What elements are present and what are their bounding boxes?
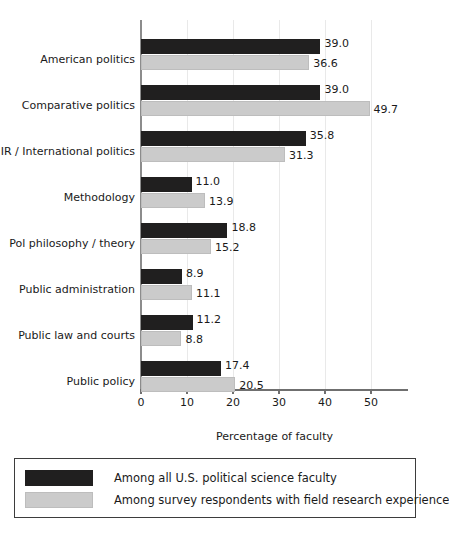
category-label-7: Public policy (0, 375, 135, 388)
legend: Among all U.S. political science faculty… (14, 458, 416, 518)
legend-swatch-dark-icon (25, 470, 93, 486)
bar-value-label: 31.3 (289, 149, 314, 162)
legend-label-survey-respondents: Among survey respondents with field rese… (114, 492, 449, 508)
bar-value-label: 8.8 (185, 333, 203, 346)
bar-all-faculty-6 (141, 315, 193, 330)
bar-survey-respondents-1 (141, 101, 370, 116)
category-label-2: IR / International politics (0, 145, 135, 158)
bar-all-faculty-3 (141, 177, 192, 192)
bar-survey-respondents-3 (141, 193, 205, 208)
bar-survey-respondents-0 (141, 55, 309, 70)
tick-mark-40 (324, 389, 326, 394)
bar-all-faculty-7 (141, 361, 221, 376)
bar-survey-respondents-6 (141, 331, 181, 346)
bar-value-label: 35.8 (310, 129, 335, 142)
bar-value-label: 13.9 (209, 195, 234, 208)
category-label-4: Pol philosophy / theory (0, 237, 135, 250)
bar-value-label: 36.6 (313, 57, 338, 70)
x-axis-title: Percentage of faculty (141, 430, 408, 443)
bar-all-faculty-1 (141, 85, 320, 100)
tick-mark-30 (278, 389, 280, 394)
bar-survey-respondents-2 (141, 147, 285, 162)
bar-value-label: 11.1 (196, 287, 221, 300)
legend-swatch-light-icon (25, 492, 93, 508)
gridline-30 (279, 20, 280, 389)
category-label-0: American politics (0, 53, 135, 66)
bar-all-faculty-0 (141, 39, 320, 54)
tick-label-50: 50 (364, 396, 378, 409)
tick-mark-50 (370, 389, 372, 394)
bar-survey-respondents-4 (141, 239, 211, 254)
gridline-40 (325, 20, 326, 389)
bar-value-label: 15.2 (215, 241, 240, 254)
tick-label-30: 30 (272, 396, 286, 409)
bar-value-label: 39.0 (324, 83, 349, 96)
bar-value-label: 17.4 (225, 359, 250, 372)
bar-survey-respondents-5 (141, 285, 192, 300)
bar-value-label: 20.5 (239, 379, 264, 392)
bar-value-label: 11.2 (197, 313, 222, 326)
gridline-50 (371, 20, 372, 389)
bar-all-faculty-4 (141, 223, 227, 238)
bar-all-faculty-2 (141, 131, 306, 146)
category-label-1: Comparative politics (0, 99, 135, 112)
bar-value-label: 39.0 (324, 37, 349, 50)
category-label-6: Public law and courts (0, 329, 135, 342)
bar-survey-respondents-7 (141, 377, 235, 392)
bar-value-label: 11.0 (196, 175, 221, 188)
bar-value-label: 8.9 (186, 267, 204, 280)
tick-label-10: 10 (180, 396, 194, 409)
tick-label-20: 20 (226, 396, 240, 409)
category-label-3: Methodology (0, 191, 135, 204)
bar-all-faculty-5 (141, 269, 182, 284)
category-label-5: Public administration (0, 283, 135, 296)
bar-value-label: 18.8 (231, 221, 256, 234)
legend-label-all-faculty: Among all U.S. political science faculty (114, 470, 337, 486)
bar-value-label: 49.7 (374, 103, 399, 116)
tick-label-0: 0 (138, 396, 145, 409)
tick-label-40: 40 (318, 396, 332, 409)
